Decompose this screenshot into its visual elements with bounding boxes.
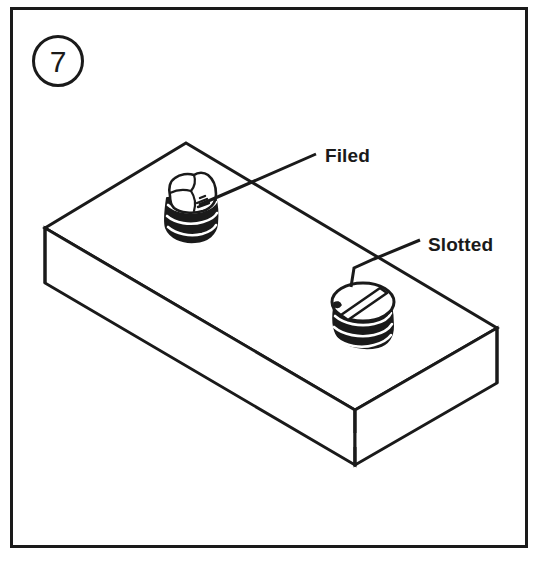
slotted-screw-rim-nick	[334, 302, 341, 307]
step-number-badge: 7	[34, 37, 83, 86]
filed-screw	[165, 173, 217, 242]
technical-illustration: 7	[0, 0, 538, 577]
callout-slotted-label: Slotted	[428, 234, 493, 255]
callout-filed-label: Filed	[325, 145, 370, 166]
figure-container: 7	[0, 0, 538, 577]
slotted-screw	[332, 283, 394, 348]
metal-block	[45, 143, 497, 466]
step-number-label: 7	[50, 45, 67, 78]
